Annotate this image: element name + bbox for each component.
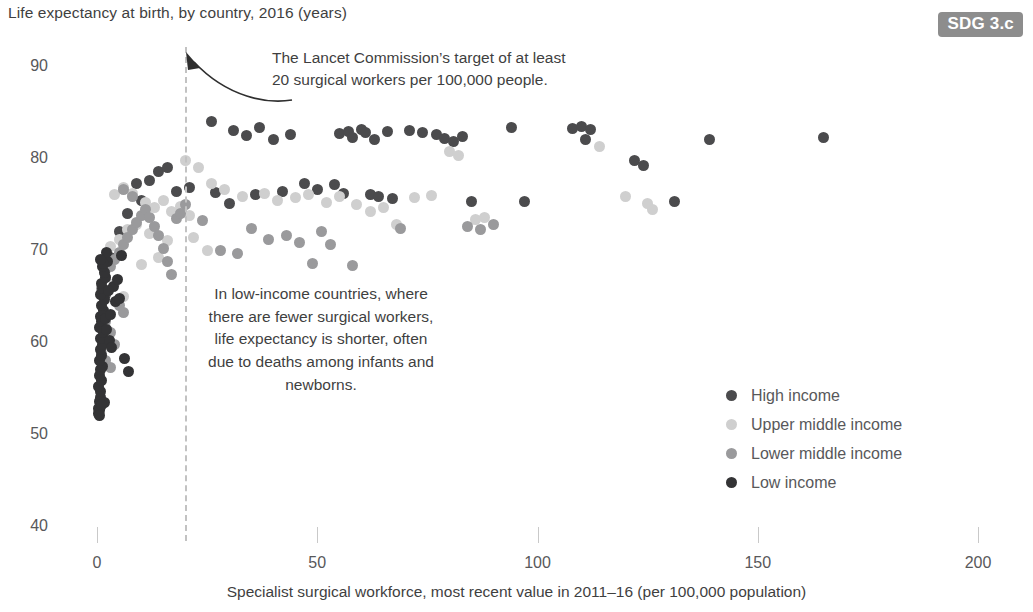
- y-tick-label: 70: [0, 241, 48, 259]
- scatter-point: [387, 193, 398, 204]
- scatter-point: [206, 116, 217, 127]
- y-tick-label: 60: [0, 333, 48, 351]
- legend-item[interactable]: Upper middle income: [726, 412, 902, 437]
- scatter-point: [246, 223, 257, 234]
- y-tick-label: 40: [0, 517, 48, 535]
- scatter-point: [263, 234, 274, 245]
- scatter-point: [285, 129, 296, 140]
- legend-swatch-icon: [726, 390, 737, 401]
- y-tick-label: 90: [0, 57, 48, 75]
- legend-item[interactable]: Lower middle income: [726, 441, 902, 466]
- scatter-point: [378, 202, 389, 213]
- x-tick-label: 0: [67, 554, 127, 572]
- scatter-point: [475, 224, 486, 235]
- x-tick-mark: [978, 527, 979, 543]
- y-tick-label: 50: [0, 425, 48, 443]
- x-tick-mark: [538, 527, 539, 543]
- scatter-point: [647, 204, 658, 215]
- x-tick-mark: [97, 527, 98, 543]
- scatter-point: [334, 191, 345, 202]
- scatter-point: [259, 188, 270, 199]
- scatter-point: [197, 215, 208, 226]
- scatter-point: [254, 122, 265, 133]
- scatter-point: [232, 248, 243, 259]
- scatter-point: [127, 191, 138, 202]
- target-annotation-line1: The Lancet Commission’s target of at lea…: [272, 47, 642, 69]
- target-annotation: The Lancet Commission’s target of at lea…: [272, 47, 642, 91]
- scatter-point: [506, 122, 517, 133]
- scatter-point: [219, 184, 230, 195]
- legend-swatch-icon: [726, 477, 737, 488]
- scatter-point: [162, 256, 173, 267]
- scatter-point: [395, 223, 406, 234]
- x-tick-label: 50: [287, 554, 347, 572]
- scatter-point: [118, 307, 129, 318]
- scatter-point: [237, 191, 248, 202]
- scatter-point: [241, 130, 252, 141]
- scatter-point: [294, 237, 305, 248]
- scatter-point: [158, 243, 169, 254]
- x-tick-mark: [317, 527, 318, 543]
- legend-swatch-icon: [726, 419, 737, 430]
- scatter-point: [426, 190, 437, 201]
- x-tick-label: 150: [728, 554, 788, 572]
- scatter-point: [453, 150, 464, 161]
- scatter-point: [290, 192, 301, 203]
- scatter-point: [166, 269, 177, 280]
- scatter-point: [268, 134, 279, 145]
- scatter-point: [188, 232, 199, 243]
- scatter-point: [594, 141, 605, 152]
- scatter-point: [224, 198, 235, 209]
- scatter-point: [382, 126, 393, 137]
- legend: High incomeUpper middle incomeLower midd…: [726, 383, 902, 499]
- scatter-point: [369, 134, 380, 145]
- scatter-point: [373, 191, 384, 202]
- scatter-point: [106, 342, 117, 353]
- scatter-point: [158, 195, 169, 206]
- scatter-point: [466, 196, 477, 207]
- scatter-point: [299, 178, 310, 189]
- scatter-point: [325, 239, 336, 250]
- legend-item-label: Upper middle income: [751, 416, 902, 434]
- x-tick-label: 100: [508, 554, 568, 572]
- scatter-point: [347, 260, 358, 271]
- target-reference-line: [185, 47, 187, 541]
- scatter-point: [409, 192, 420, 203]
- target-annotation-line2: 20 surgical workers per 100,000 people.: [272, 69, 642, 91]
- scatter-point: [171, 186, 182, 197]
- scatter-point: [228, 125, 239, 136]
- low-income-note: In low-income countries, where there are…: [205, 283, 437, 396]
- scatter-point: [202, 245, 213, 256]
- scatter-point: [118, 184, 129, 195]
- scatter-point: [351, 199, 362, 210]
- plot-area: 405060708090050100150200: [0, 0, 1033, 612]
- scatter-point: [112, 274, 123, 285]
- scatter-point: [122, 208, 133, 219]
- scatter-point: [281, 230, 292, 241]
- scatter-point: [272, 195, 283, 206]
- scatter-point: [704, 134, 715, 145]
- scatter-point: [316, 226, 327, 237]
- scatter-point: [818, 132, 829, 143]
- y-tick-label: 80: [0, 149, 48, 167]
- scatter-point: [193, 162, 204, 173]
- legend-item[interactable]: High income: [726, 383, 902, 408]
- scatter-point: [457, 131, 468, 142]
- scatter-point: [206, 178, 217, 189]
- scatter-point: [462, 221, 473, 232]
- legend-item-label: Low income: [751, 474, 836, 492]
- scatter-point: [103, 285, 114, 296]
- scatter-point: [116, 250, 127, 261]
- scatter-point: [119, 353, 130, 364]
- scatter-point: [404, 125, 415, 136]
- scatter-point: [144, 175, 155, 186]
- legend-item[interactable]: Low income: [726, 470, 902, 495]
- legend-item-label: Lower middle income: [751, 445, 902, 463]
- scatter-point: [638, 160, 649, 171]
- scatter-point: [105, 309, 116, 320]
- scatter-point: [321, 197, 332, 208]
- scatter-point: [519, 196, 530, 207]
- scatter-point: [94, 410, 105, 421]
- scatter-point: [307, 258, 318, 269]
- scatter-point: [136, 259, 147, 270]
